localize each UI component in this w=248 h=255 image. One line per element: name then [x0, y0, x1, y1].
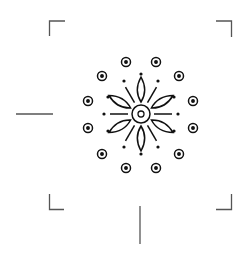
rays [110, 87, 172, 141]
dotted-circle-icon [175, 72, 184, 81]
dotted-circle-icon [98, 150, 107, 159]
dotted-circle-icon [84, 124, 93, 133]
dotted-circle-icon [122, 58, 131, 67]
dotted-circle-icon [98, 72, 107, 81]
dotted-circle-icon [189, 124, 198, 133]
corner-bottom-right-icon [216, 194, 232, 210]
corner-bottom-left-icon [50, 194, 65, 210]
dotted-circle-icon [152, 58, 161, 67]
illustration [0, 0, 248, 255]
center-dot [138, 111, 144, 117]
corner-top-left-icon [50, 21, 66, 36]
corner-top-right-icon [216, 21, 232, 37]
dotted-circle-icon [175, 150, 184, 159]
mandala-flower-icon [102, 72, 179, 155]
viewfinder-frame [16, 21, 232, 244]
dotted-circle-icon [189, 97, 198, 106]
center-ring [132, 105, 150, 123]
dotted-circle-icon [152, 164, 161, 173]
dotted-circle-icon [122, 164, 131, 173]
dotted-circle-icon [84, 97, 93, 106]
canvas [0, 0, 248, 255]
